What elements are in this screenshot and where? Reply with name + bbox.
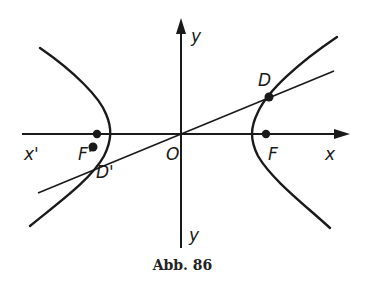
focus-f-point (262, 130, 270, 138)
focus-f-prime-point (93, 130, 101, 138)
y-neg-axis-label: y (188, 225, 200, 245)
y-axis-label: y (190, 26, 202, 46)
y-axis-arrow-icon (176, 18, 186, 34)
point-d (265, 93, 274, 102)
focus-f-label: F (268, 144, 278, 164)
line-d-dprime (38, 71, 334, 193)
x-neg-axis-label: x' (23, 144, 39, 164)
point-d-prime-label: D' (96, 162, 114, 182)
hyperbola-diagram: y D x' F' O F x D' y (0, 0, 365, 281)
origin-label: O (166, 144, 179, 164)
point-d-label: D (258, 70, 271, 90)
x-axis-arrow-icon (334, 129, 350, 139)
figure-caption: Abb. 86 (0, 257, 365, 273)
focus-f-prime-label: F' (78, 144, 92, 164)
x-axis-label: x (324, 144, 336, 164)
